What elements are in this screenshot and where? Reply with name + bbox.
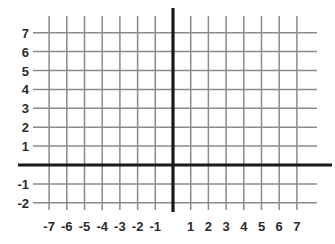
x-tick-label: 5 <box>258 220 265 233</box>
x-tick-label: -4 <box>96 220 108 233</box>
x-tick-label: 2 <box>205 220 212 233</box>
x-tick-label: 6 <box>276 220 283 233</box>
x-tick-label: -3 <box>114 220 126 233</box>
x-tick-label: 1 <box>187 220 194 233</box>
x-tick-label: -2 <box>132 220 144 233</box>
y-tick-label: 4 <box>22 83 29 96</box>
y-tick-label: 2 <box>22 121 29 134</box>
y-tick-label: 3 <box>22 102 29 115</box>
y-tick-label: 1 <box>22 140 29 153</box>
y-tick-label: -2 <box>17 196 29 209</box>
x-tick-label: -5 <box>79 220 91 233</box>
horizontal-gridlines-group <box>33 33 317 203</box>
x-tick-label: -6 <box>61 220 73 233</box>
x-tick-label: -1 <box>150 220 162 233</box>
coordinate-grid-figure: 7654321-1-2 -7-6-5-4-3-2-11234567 <box>0 0 335 244</box>
y-tick-label: 5 <box>22 64 29 77</box>
x-tick-label: 7 <box>293 220 300 233</box>
x-tick-label: 4 <box>240 220 247 233</box>
y-tick-label: 7 <box>22 26 29 39</box>
y-tick-label: 6 <box>22 45 29 58</box>
coordinate-plane-svg <box>0 0 335 244</box>
x-tick-label: 3 <box>222 220 229 233</box>
y-tick-label: -1 <box>17 177 29 190</box>
x-tick-label: -7 <box>43 220 55 233</box>
